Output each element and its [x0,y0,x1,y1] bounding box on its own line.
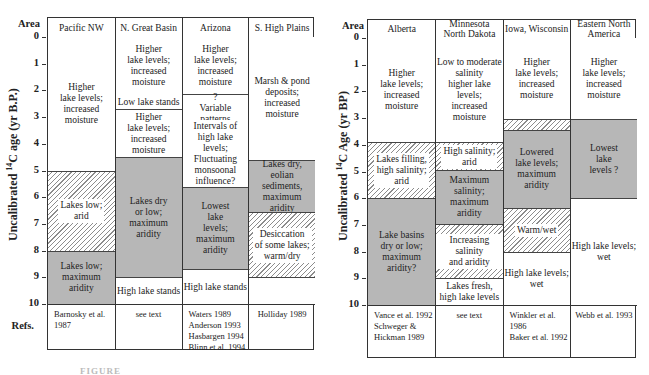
period-description: Higher lake levels; increased moisture [515,57,558,101]
area-column: Minnesota North DakotaLow to moderate sa… [435,20,502,357]
references: Winkler et al. 1986 Baker et al. 1992 [504,305,570,357]
y-tick-label: 1 [337,58,359,69]
y-tick-mark [362,305,366,306]
period-description: Higher lake levels; increased moisture [582,57,625,101]
right-panel: Area Refs. Uncalibrated 14C Age (yr BP) … [0,0,649,375]
period-description: High lake levels; wet [504,268,568,290]
y-tick-label: 0 [337,31,359,42]
period-description: Lowest lake levels ? [589,143,618,176]
y-tick-mark [362,252,366,253]
period-description: Warm/wet [515,224,558,237]
y-tick-mark [362,225,366,226]
y-tick-label: 7 [337,218,359,229]
y-axis-title-text: Uncalibrated [336,171,350,241]
column-header-label: Eastern North America [577,19,630,39]
column-header-label: Minnesota North Dakota [443,19,495,39]
column-header: Alberta [368,20,435,39]
period-description: Lakes fresh, high lake levels [440,281,500,303]
y-tick-label: 6 [337,191,359,202]
y-tick-mark [362,172,366,173]
area-column: Iowa, WisconsinHigher lake levels; incre… [503,20,570,357]
period-description: Maximum salinity; maximum aridity [450,175,490,219]
area-column: Eastern North AmericaHigher lake levels;… [570,20,637,357]
period-block-white: Higher lake levels; increased moisture [504,38,570,119]
column-header: Minnesota North Dakota [436,20,502,39]
y-tick-label: 4 [337,138,359,149]
period-description: High salinity; arid [441,145,497,169]
period-description: Lake basins dry or low; maximum aridity? [379,230,424,274]
y-tick-mark [362,65,366,66]
period-description: Lakes filling, high salinity; arid [374,153,429,188]
period-block-hatch: Increasing salinity and aridity [436,224,502,279]
y-tick-label: 5 [337,165,359,176]
references: Webb et al. 1993 [571,305,637,357]
area-column: AlbertaHigher lake levels; increased moi… [368,20,435,357]
y-tick-label: 3 [337,111,359,122]
y-tick-mark [362,38,366,39]
period-block-gray: Maximum salinity; maximum aridity [436,170,502,223]
period-block-white: High lake levels; wet [571,198,637,305]
period-block-gray: Lowered lake levels; maximum aridity [504,130,570,207]
y-tick-mark [362,145,366,146]
area-label: Area [322,20,364,31]
period-description: Lowered lake levels; maximum aridity [515,147,558,191]
y-tick-label: 8 [337,245,359,256]
y-axis-title-text-post: C Age (yr BP) [336,91,350,162]
references: Vance et al. 1992 Schweger & Hickman 198… [368,305,435,357]
data-table: AlbertaHigher lake levels; increased moi… [367,19,636,358]
y-tick-label: 2 [337,84,359,95]
period-block-white: Higher lake levels; increased moisture [571,38,637,119]
period-block-white: Low to moderate salinity higher lake lev… [436,38,502,142]
period-block-white: Higher lake levels; increased moisture [368,38,435,142]
y-tick-mark [362,278,366,279]
period-description: Low to moderate salinity higher lake lev… [436,57,502,123]
column-header: Eastern North America [571,20,637,39]
period-block-white: High lake levels; wet [504,252,570,305]
column-header-label: Alberta [387,24,416,34]
period-description: Higher lake levels; increased moisture [380,68,423,112]
column-header: Iowa, Wisconsin [504,20,570,39]
references: see text [436,305,502,357]
y-tick-mark [362,118,366,119]
column-header-label: Iowa, Wisconsin [505,24,568,34]
period-block-hatch: Lakes filling, high salinity; arid [368,142,435,198]
period-block-gray: Lowest lake levels ? [571,119,637,198]
y-tick-label: 9 [337,271,359,282]
y-tick-label: 10 [337,298,359,309]
period-description: Increasing salinity and aridity [436,234,502,269]
period-block-gray: Lake basins dry or low; maximum aridity? [368,198,435,305]
period-block-white: Lakes fresh, high lake levels [436,278,502,305]
period-block-hatch: Warm/wet [504,208,570,252]
period-block-hatch: High salinity; arid [436,142,502,170]
figure-caption-fragment: FIGURE [80,366,121,375]
y-tick-mark [362,91,366,92]
period-block-hatch [504,119,570,130]
y-tick-mark [362,198,366,199]
period-description: High lake levels; wet [572,241,636,263]
